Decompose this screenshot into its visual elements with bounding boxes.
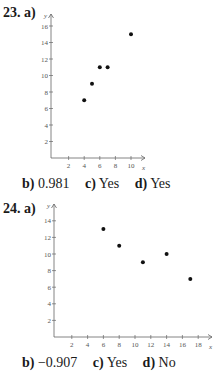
answer-c-label: c) xyxy=(93,355,104,370)
data-point xyxy=(165,252,169,256)
problem-24-answers: b) −0.907 c) Yes d) No xyxy=(22,355,176,371)
x-tick-label: 16 xyxy=(179,341,187,349)
answer-b-label: b) xyxy=(22,355,34,370)
data-point xyxy=(188,277,192,281)
y-tick-label: 10 xyxy=(44,251,52,259)
x-tick-label: 18 xyxy=(195,341,203,349)
data-point xyxy=(141,260,145,264)
scatter-plot-24: xy246810121416182468101214 xyxy=(0,0,214,377)
y-tick-label: 14 xyxy=(44,217,52,225)
x-axis-label: x xyxy=(208,343,213,351)
y-tick-label: 8 xyxy=(48,267,52,275)
y-tick-label: 2 xyxy=(48,317,52,325)
x-tick-label: 14 xyxy=(163,341,171,349)
x-tick-label: 4 xyxy=(86,341,90,349)
x-tick-label: 6 xyxy=(102,341,106,349)
y-tick-label: 6 xyxy=(48,284,52,292)
answer-d-label: d) xyxy=(143,355,155,370)
data-point xyxy=(117,244,121,248)
answer-c-value: Yes xyxy=(107,355,127,370)
x-tick-label: 2 xyxy=(70,341,74,349)
y-axis-label: y xyxy=(46,202,51,210)
answer-b-value: −0.907 xyxy=(38,355,77,370)
x-tick-label: 8 xyxy=(117,341,121,349)
answer-d-value: No xyxy=(159,355,176,370)
x-tick-label: 10 xyxy=(132,341,140,349)
x-tick-label: 12 xyxy=(147,341,155,349)
y-tick-label: 12 xyxy=(44,234,52,242)
data-point xyxy=(101,227,105,231)
y-tick-label: 4 xyxy=(48,300,52,308)
